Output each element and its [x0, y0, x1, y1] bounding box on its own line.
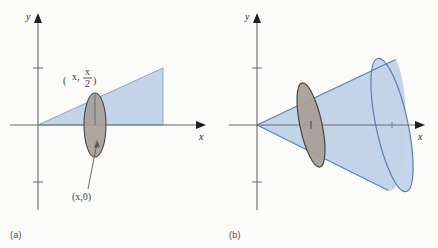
top-label-numerator: x — [85, 66, 90, 77]
panel-a-canvas: y x ( x , x 2 ) (x,0) — [0, 0, 219, 248]
panel-b-caption: (b) — [229, 230, 241, 240]
panel-b: y x (b) — [219, 0, 438, 248]
paren-open-glyph: ( — [63, 75, 67, 87]
top-label-denominator: 2 — [85, 78, 90, 89]
x-axis-label: x — [198, 131, 204, 142]
y-axis-label: y — [25, 11, 31, 22]
y-axis-arrow-icon — [253, 13, 261, 23]
panel-a-caption: (a) — [10, 230, 22, 240]
x-axis-label: x — [417, 131, 423, 142]
paren-close-glyph: ) — [93, 75, 96, 87]
y-axis-arrow-icon — [34, 13, 42, 23]
panel-b-canvas: y x — [219, 0, 438, 248]
x-axis-arrow-icon — [196, 121, 206, 129]
x-axis-arrow-icon — [415, 121, 425, 129]
panel-a: y x ( x , x 2 ) (x,0) (a) — [0, 0, 219, 248]
y-axis-label: y — [244, 11, 250, 22]
bottom-point-label: (x,0) — [72, 191, 91, 203]
figure-container: y x ( x , x 2 ) (x,0) (a) — [0, 0, 438, 248]
top-point-label: ( x , x 2 ) — [63, 66, 96, 89]
top-label-comma: , — [77, 71, 80, 82]
